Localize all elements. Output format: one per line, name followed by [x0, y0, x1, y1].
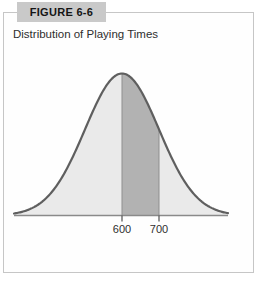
- figure-label: FIGURE 6-6: [17, 2, 106, 22]
- shaded-region-600-700: [122, 60, 159, 216]
- figure-title: Distribution of Playing Times: [13, 28, 158, 40]
- figure-panel: FIGURE 6-6 Distribution of Playing Times…: [0, 0, 260, 294]
- distribution-chart: 600 700: [0, 0, 260, 294]
- bell-curve-area: [14, 74, 228, 216]
- x-tick-label-700: 700: [150, 223, 168, 235]
- x-tick-label-600: 600: [113, 223, 131, 235]
